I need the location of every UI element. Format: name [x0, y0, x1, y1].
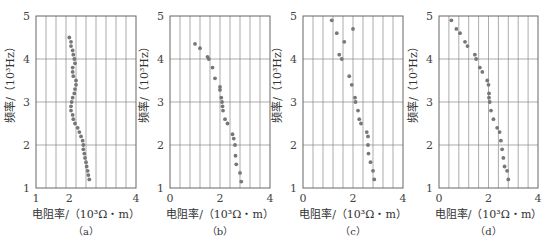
- y-tick-label: 2: [157, 139, 164, 152]
- data-point: [234, 162, 238, 166]
- x-axis-label: 电阻率/（10³Ω・m）: [435, 207, 543, 221]
- x-tick-label: 4: [267, 192, 274, 205]
- panel-caption: （b）: [207, 226, 233, 237]
- data-point: [79, 135, 83, 139]
- data-point: [71, 117, 75, 121]
- data-point: [72, 57, 76, 61]
- data-point: [69, 109, 73, 113]
- x-tick-label: 2: [350, 192, 357, 205]
- data-point: [71, 49, 75, 53]
- panel-caption: （a）: [73, 226, 99, 237]
- data-point: [73, 61, 77, 65]
- data-point: [499, 139, 503, 143]
- y-tick-label: 4: [157, 53, 164, 66]
- y-tick-label: 1: [157, 182, 164, 195]
- data-point: [71, 74, 75, 78]
- data-point: [489, 109, 493, 113]
- y-tick-label: 5: [426, 10, 433, 23]
- y-axis-label: 频率/（10³Hz）: [270, 41, 284, 123]
- x-axis-label: 电阻率/（10³Ω・m）: [32, 207, 140, 221]
- x-tick-label: 4: [133, 192, 140, 205]
- data-point: [480, 70, 484, 74]
- data-point: [492, 117, 496, 121]
- grid: [170, 16, 270, 188]
- data-point: [234, 154, 238, 158]
- y-tick-label: 2: [23, 139, 30, 152]
- data-points: [193, 42, 243, 183]
- y-axis-label: 频率/（10³Hz）: [406, 41, 420, 123]
- y-tick-label: 2: [426, 139, 433, 152]
- y-tick-label: 1: [23, 182, 30, 195]
- data-point: [70, 100, 74, 104]
- x-tick-label: 2: [66, 192, 73, 205]
- data-point: [83, 156, 87, 160]
- data-point: [505, 169, 509, 173]
- data-point: [198, 46, 202, 50]
- data-point: [342, 40, 346, 44]
- data-point: [74, 83, 78, 87]
- x-axis-label: 电阻率/（10³Ω・m）: [166, 207, 274, 221]
- data-point: [223, 117, 227, 121]
- y-tick-label: 3: [426, 96, 433, 109]
- data-point: [233, 143, 237, 147]
- data-point: [350, 83, 354, 87]
- data-point: [71, 113, 75, 117]
- data-point: [458, 31, 462, 35]
- data-point: [219, 96, 223, 100]
- data-point: [366, 143, 370, 147]
- data-point: [478, 66, 482, 70]
- data-point: [357, 117, 361, 121]
- data-point: [454, 27, 458, 31]
- data-point: [351, 27, 355, 31]
- y-tick-label: 1: [290, 182, 297, 195]
- chart-panel-a: 12345124频率/（10³Hz）电阻率/（10³Ω・m）（a）: [3, 10, 140, 237]
- x-tick-label: 0: [167, 192, 174, 205]
- data-point: [81, 147, 85, 151]
- data-point: [71, 96, 75, 100]
- y-tick-label: 1: [426, 182, 433, 195]
- data-point: [221, 109, 225, 113]
- data-point: [466, 44, 470, 48]
- x-tick-label: 0: [436, 192, 443, 205]
- data-point: [71, 66, 75, 70]
- data-point: [69, 104, 73, 108]
- data-point: [226, 122, 230, 126]
- data-point: [474, 57, 478, 61]
- panel-caption: （d）: [475, 226, 501, 237]
- data-point: [473, 53, 477, 57]
- data-point: [371, 169, 375, 173]
- data-point: [207, 57, 211, 61]
- x-tick-label: 2: [485, 192, 492, 205]
- data-point: [353, 96, 357, 100]
- data-point: [82, 152, 86, 156]
- data-point: [231, 132, 235, 136]
- x-tick-label: 0: [300, 192, 307, 205]
- data-point: [369, 160, 373, 164]
- data-point: [238, 171, 242, 175]
- y-tick-label: 3: [157, 96, 164, 109]
- grid: [303, 16, 403, 188]
- data-point: [498, 130, 502, 134]
- data-point: [485, 79, 489, 83]
- data-point: [213, 76, 217, 80]
- data-point: [67, 36, 71, 40]
- data-points: [67, 36, 91, 182]
- data-point: [365, 130, 369, 134]
- y-axis-label: 频率/（10³Hz）: [137, 41, 151, 123]
- y-tick-label: 4: [23, 53, 30, 66]
- data-point: [211, 66, 215, 70]
- data-point: [221, 104, 225, 108]
- x-tick-label: 2: [217, 192, 224, 205]
- data-point: [73, 122, 77, 126]
- data-point: [372, 178, 376, 182]
- data-point: [71, 53, 75, 57]
- data-point: [73, 87, 77, 91]
- data-point: [81, 143, 85, 147]
- data-point: [337, 53, 341, 57]
- data-point: [487, 92, 491, 96]
- data-point: [487, 83, 491, 87]
- x-tick-label: 4: [535, 192, 542, 205]
- data-point: [71, 70, 75, 74]
- data-point: [330, 18, 334, 22]
- data-point: [335, 31, 339, 35]
